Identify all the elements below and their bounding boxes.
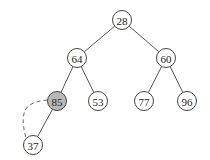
tree-node-64: 64: [68, 49, 87, 68]
edge-64-85: [61, 67, 73, 93]
tree-node-77: 77: [135, 92, 154, 111]
dashed-swap-arc: [23, 100, 47, 138]
node-label: 64: [72, 53, 84, 65]
edge-60-96: [170, 67, 183, 93]
tree-node-37: 37: [24, 136, 43, 155]
node-label: 96: [182, 96, 194, 108]
tree-edges: [38, 26, 183, 137]
tree-node-53: 53: [89, 92, 108, 111]
node-label: 85: [52, 96, 64, 108]
node-label: 53: [93, 96, 105, 108]
tree-node-85: 85: [48, 92, 67, 111]
node-label: 77: [139, 96, 151, 108]
edge-28-64: [84, 26, 114, 52]
edge-64-53: [81, 67, 94, 93]
node-label: 28: [117, 15, 129, 27]
binary-tree-diagram: 2864608553779637: [0, 0, 210, 160]
edge-60-77: [148, 66, 161, 92]
edge-28-60: [129, 26, 159, 52]
tree-node-60: 60: [157, 49, 176, 68]
swap-arc: [23, 100, 47, 138]
node-label: 37: [28, 140, 40, 152]
tree-node-96: 96: [178, 92, 197, 111]
tree-node-28: 28: [113, 11, 132, 30]
tree-nodes: 2864608553779637: [24, 11, 197, 155]
edge-85-37: [38, 109, 53, 136]
node-label: 60: [161, 53, 173, 65]
